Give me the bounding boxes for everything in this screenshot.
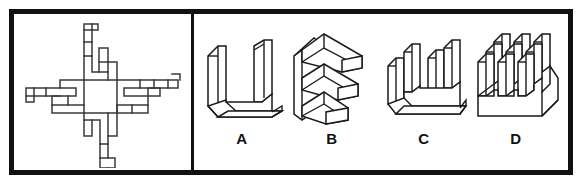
flat-pattern-net bbox=[20, 18, 185, 168]
figure-frame: A bbox=[9, 9, 573, 175]
option-c[interactable]: C bbox=[378, 22, 470, 170]
options-panel: A bbox=[194, 14, 568, 170]
option-d-label: D bbox=[470, 130, 562, 147]
option-b[interactable]: B bbox=[286, 22, 378, 170]
option-b-label: B bbox=[286, 130, 378, 147]
puzzle-figure: A bbox=[0, 0, 588, 192]
option-a-label: A bbox=[196, 130, 288, 147]
net-center-square bbox=[84, 80, 117, 113]
option-a[interactable]: A bbox=[196, 22, 288, 170]
option-c-label: C bbox=[378, 130, 470, 147]
net-arm-up bbox=[84, 24, 117, 80]
option-b-illustration bbox=[286, 22, 378, 134]
option-d-illustration bbox=[470, 22, 562, 134]
option-d[interactable]: D bbox=[470, 22, 562, 170]
net-arm-left bbox=[26, 80, 84, 113]
option-a-illustration bbox=[196, 22, 288, 134]
net-panel bbox=[14, 14, 191, 170]
net-arm-right bbox=[117, 74, 180, 113]
net-arm-down bbox=[84, 113, 117, 168]
option-c-illustration bbox=[378, 22, 470, 134]
